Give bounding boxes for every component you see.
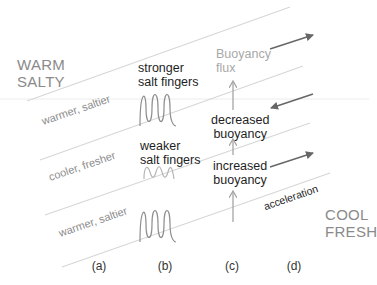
increased-text: increased — [213, 160, 267, 174]
weaker-text: weaker — [140, 140, 200, 154]
warm-label: WARM — [17, 57, 65, 74]
panel-label-b: (b) — [150, 260, 180, 273]
flux-text: flux — [216, 62, 271, 76]
buoyancy-text: Buoyancy — [216, 48, 271, 62]
arrow-right-bottom — [270, 153, 313, 167]
panel-label-d: (d) — [279, 260, 309, 273]
salt-fingers-text: salt fingers — [138, 76, 198, 90]
decreased-text: decreased — [211, 114, 269, 128]
decreased-buoyancy-label: decreased buoyancy — [211, 114, 269, 142]
buoyancy-flux-label: Buoyancy flux — [216, 48, 271, 76]
buoyancy-text: buoyancy — [211, 128, 269, 142]
panel-label-c: (c) — [217, 260, 247, 273]
arrow-right-top — [270, 35, 313, 49]
fresh-label: FRESH — [325, 224, 377, 241]
warm-salty-label: WARM SALTY — [17, 57, 65, 90]
weaker-salt-fingers-label: weaker salt fingers — [140, 140, 200, 168]
panel-label-a: (a) — [84, 260, 114, 273]
salt-fingers-text: salt fingers — [140, 154, 200, 168]
stronger-text: stronger — [138, 62, 198, 76]
weak-salt-finger-wave — [144, 167, 174, 179]
buoyancy-text: buoyancy — [213, 174, 267, 188]
salty-label: SALTY — [17, 74, 65, 91]
arrow-left-middle — [271, 94, 313, 108]
increased-buoyancy-label: increased buoyancy — [213, 160, 267, 188]
cool-label: COOL — [325, 207, 377, 224]
stronger-salt-fingers-label: stronger salt fingers — [138, 62, 198, 90]
acceleration-arrows — [270, 35, 313, 167]
cool-fresh-label: COOL FRESH — [325, 207, 377, 240]
